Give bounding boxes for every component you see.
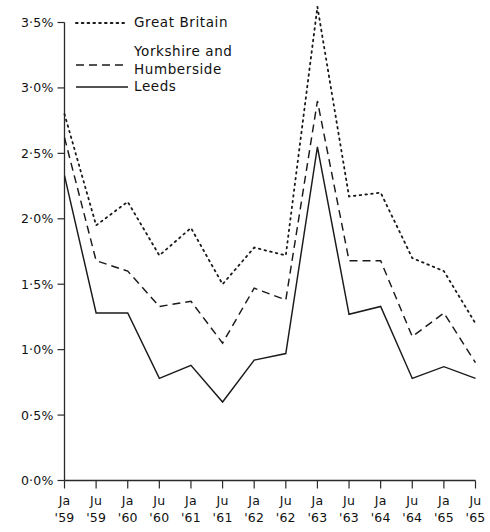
y-tick-label: 3·0% [21,80,54,95]
line-chart-figure: 0·0%0·5%1·0%1·5%2·0%2·5%3·0%3·5% Ja'59Ju… [0,0,490,532]
series-line-yorkshire-and-humberside [65,101,476,363]
y-tick-label: 2·5% [21,146,54,161]
y-tick-label: 2·0% [21,211,54,226]
chart-legend: Great BritainYorkshire andHumbersideLeed… [76,14,232,94]
y-tick-label: 1·0% [21,342,54,357]
legend-label-yorkshire-and-humberside: Yorkshire and [133,43,232,59]
series-lines [65,7,476,402]
x-tick-label-year: '59 [55,510,75,525]
x-tick-label-month: Ju [216,493,229,508]
y-axis: 0·0%0·5%1·0%1·5%2·0%2·5%3·0%3·5% [21,15,65,488]
x-tick-label-month: Ja [58,493,71,508]
y-tick-label: 3·5% [21,15,54,30]
x-tick-label-month: Ja [121,493,134,508]
x-tick-label-month: Ja [437,493,450,508]
y-tick-label: 0·5% [21,408,54,423]
x-tick-label-year: '62 [244,510,264,525]
x-tick-label-month: Ju [342,493,355,508]
x-tick-label-year: '63 [307,510,327,525]
series-line-great-britain [65,7,476,324]
x-axis: Ja'59Ju'59Ja'60Ju'60Ja'61Ju'61Ja'62Ju'62… [55,481,486,525]
chart-container: 0·0%0·5%1·0%1·5%2·0%2·5%3·0%3·5% Ja'59Ju… [0,0,490,532]
x-tick-label-year: '62 [276,510,296,525]
x-tick-label-month: Ju [89,493,102,508]
x-tick-label-year: '61 [181,510,201,525]
y-tick-label: 1·5% [21,277,54,292]
legend-label-yorkshire-and-humberside: Humberside [134,61,222,77]
x-tick-label-month: Ju [152,493,165,508]
x-tick-label-month: Ja [184,493,197,508]
x-tick-label-year: '63 [339,510,359,525]
x-tick-label-year: '65 [466,510,486,525]
x-tick-label-month: Ju [405,493,418,508]
x-tick-label-year: '65 [434,510,454,525]
x-tick-label-year: '64 [402,510,422,525]
x-tick-label-month: Ja [247,493,260,508]
x-tick-label-year: '59 [86,510,106,525]
x-tick-label-year: '60 [118,510,138,525]
legend-label-leeds: Leeds [134,78,177,94]
x-tick-label-month: Ja [374,493,387,508]
x-tick-label-year: '60 [149,510,169,525]
x-tick-label-month: Ju [279,493,292,508]
series-line-leeds [65,147,476,402]
x-tick-label-year: '61 [213,510,233,525]
legend-label-great-britain: Great Britain [134,14,228,30]
x-tick-label-month: Ja [311,493,324,508]
x-tick-label-month: Ju [468,493,481,508]
x-tick-label-year: '64 [371,510,391,525]
y-tick-label: 0·0% [21,473,54,488]
